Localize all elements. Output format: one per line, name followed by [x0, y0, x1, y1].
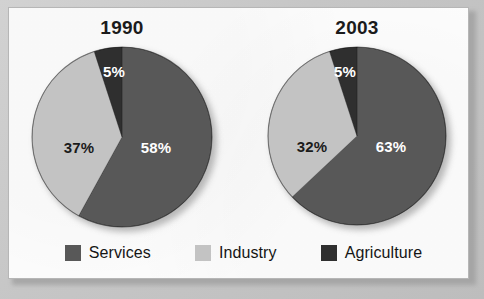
- pie-wrap-1990: 58% 37% 5%: [31, 46, 213, 228]
- pie-label-services-1990: 58%: [141, 139, 172, 156]
- legend-item-industry: Industry: [195, 244, 277, 262]
- pie-wrap-2003: 63% 32% 5%: [267, 46, 447, 226]
- legend-label-industry: Industry: [219, 244, 277, 262]
- pie-label-agriculture-2003: 5%: [334, 63, 356, 80]
- pie-slices-2003: [268, 47, 446, 225]
- pie-graphic-2003: [267, 46, 447, 226]
- figure-frame: 1990 58% 37% 5%: [0, 0, 484, 299]
- pie-svg-2003: [267, 46, 447, 226]
- legend-swatch-services-icon: [65, 245, 81, 261]
- legend-label-services: Services: [89, 244, 151, 262]
- pie-label-industry-1990: 37%: [64, 139, 95, 156]
- pie-label-agriculture-1990: 5%: [103, 63, 125, 80]
- legend-label-agriculture: Agriculture: [345, 244, 423, 262]
- pie-label-services-2003: 63%: [376, 138, 407, 155]
- legend-item-agriculture: Agriculture: [321, 244, 423, 262]
- pie-label-industry-2003: 32%: [297, 138, 328, 155]
- legend-swatch-industry-icon: [195, 245, 211, 261]
- figure-panel: 1990 58% 37% 5%: [8, 7, 469, 279]
- legend-swatch-agriculture-icon: [321, 245, 337, 261]
- chart-title-2003: 2003: [257, 17, 457, 39]
- chart-title-1990: 1990: [22, 17, 222, 39]
- chart-legend: Services Industry Agriculture: [9, 244, 468, 262]
- legend-item-services: Services: [65, 244, 151, 262]
